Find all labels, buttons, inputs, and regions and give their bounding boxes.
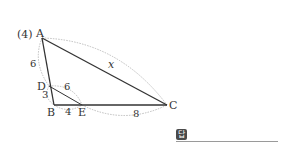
answer-line[interactable] [176,141,278,142]
vertex-label-E: E [78,106,86,119]
measurement-arcs [38,38,167,116]
length-label-BE: 4 [65,106,71,117]
arc-EC [82,105,167,116]
vertex-label-B: B [47,106,55,119]
answer-badge: 답 [176,129,187,140]
length-label-AC: x [108,58,115,71]
problem-number: (4) [17,28,33,41]
length-label-DE: 6 [64,81,70,92]
length-label-DB: 3 [42,89,48,100]
length-label-AD: 6 [30,58,36,69]
vertex-label-A: A [35,27,45,40]
vertex-label-C: C [169,99,177,112]
length-label-EC: 8 [133,108,139,119]
segments [42,38,167,105]
segment-AC [42,38,167,105]
geometry-figure: (4) A B C D E 6 3 6 4 8 x [0,0,299,156]
